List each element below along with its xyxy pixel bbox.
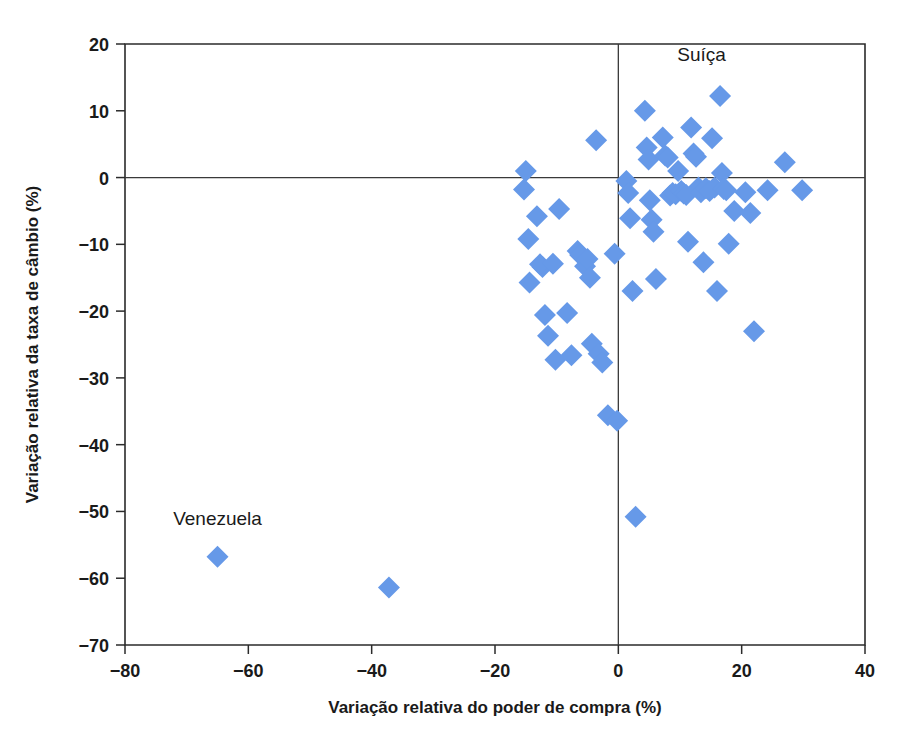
y-tick-label: 0 (99, 169, 109, 189)
y-tick-label: −30 (78, 369, 109, 389)
data-point (734, 181, 756, 203)
x-tick-label: −80 (110, 661, 141, 681)
y-tick-label: 20 (89, 35, 109, 55)
y-tick-label: −10 (78, 235, 109, 255)
data-point (519, 271, 541, 293)
data-point (774, 151, 796, 173)
scatter-chart: −80−60−40−200204020100−10−20−30−40−50−60… (0, 0, 907, 739)
y-tick-label: −40 (78, 436, 109, 456)
data-point (622, 280, 644, 302)
y-tick-label: −50 (78, 502, 109, 522)
data-point (625, 506, 647, 528)
data-point (718, 233, 740, 255)
data-point (526, 205, 548, 227)
plot-canvas: −80−60−40−200204020100−10−20−30−40−50−60… (0, 0, 907, 739)
tick-marks-group (116, 44, 865, 654)
data-point (517, 228, 539, 250)
data-point (645, 268, 667, 290)
x-tick-label: 20 (732, 661, 752, 681)
data-point (619, 207, 641, 229)
data-point (639, 189, 661, 211)
data-point (544, 349, 566, 371)
data-point (739, 202, 761, 224)
x-tick-label: −20 (480, 661, 511, 681)
data-point (701, 127, 723, 149)
data-point (207, 546, 229, 568)
data-point (534, 304, 556, 326)
data-point (560, 344, 582, 366)
data-point (706, 280, 728, 302)
y-tick-label: 10 (89, 102, 109, 122)
tick-labels-group: −80−60−40−200204020100−10−20−30−40−50−60… (78, 35, 875, 681)
data-point (757, 179, 779, 201)
y-tick-label: −20 (78, 302, 109, 322)
x-tick-label: 40 (855, 661, 875, 681)
point-annotation: Suíça (677, 44, 726, 65)
data-point (743, 320, 765, 342)
data-point (548, 198, 570, 220)
data-point (537, 325, 559, 347)
data-points-group (207, 85, 814, 598)
data-point (513, 179, 535, 201)
data-point (709, 85, 731, 107)
x-tick-label: 0 (613, 661, 623, 681)
data-point (515, 160, 537, 182)
x-tick-label: −60 (233, 661, 264, 681)
data-point (585, 129, 607, 151)
data-point (692, 251, 714, 273)
zero-reference-lines (125, 44, 865, 645)
data-point (556, 302, 578, 324)
data-point (680, 116, 702, 138)
data-point (634, 100, 656, 122)
data-point (378, 577, 400, 599)
axis-frame (125, 44, 865, 645)
data-point (604, 243, 626, 265)
data-point (791, 179, 813, 201)
data-point (677, 231, 699, 253)
y-tick-label: −60 (78, 569, 109, 589)
point-annotation: Venezuela (173, 508, 262, 529)
x-tick-label: −40 (356, 661, 387, 681)
x-axis-title: Variação relativa do poder de compra (%) (328, 698, 662, 717)
y-axis-title: Variação relativa da taxa de câmbio (%) (23, 186, 42, 503)
y-tick-label: −70 (78, 636, 109, 656)
